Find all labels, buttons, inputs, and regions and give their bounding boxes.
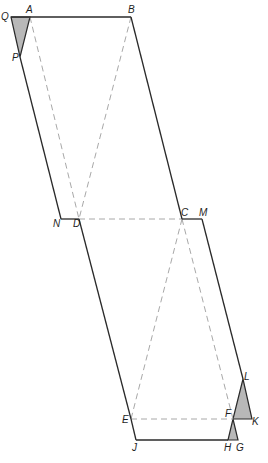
vertex-label-g: G — [236, 442, 244, 453]
dashed-line-ce — [131, 219, 182, 419]
geometric-net-diagram: QABPNDCMEFKLJHG — [0, 0, 268, 463]
vertex-label-h: H — [224, 442, 232, 453]
vertex-label-q: Q — [1, 11, 9, 22]
vertex-label-m: M — [199, 207, 208, 218]
dashed-line-bd — [79, 17, 131, 219]
vertex-labels: QABPNDCMEFKLJHG — [1, 4, 260, 453]
vertex-label-e: E — [122, 414, 129, 425]
dashed-line-cf — [182, 219, 233, 419]
shaded-triangle-qap — [11, 17, 30, 57]
shaded-triangle-fgh — [228, 419, 238, 440]
vertex-label-j: J — [131, 442, 138, 453]
solid-line-ej — [131, 419, 136, 440]
vertex-label-p: P — [12, 52, 19, 63]
solid-line-bc — [131, 17, 182, 219]
vertex-label-b: B — [128, 4, 135, 15]
vertex-label-f: F — [225, 408, 232, 419]
vertex-label-a: A — [25, 4, 33, 15]
shaded-triangle-fkl — [233, 379, 252, 419]
vertex-label-d: D — [73, 218, 80, 229]
vertex-label-c: C — [181, 207, 189, 218]
vertex-label-n: N — [53, 218, 61, 229]
shaded-triangles — [11, 17, 252, 440]
solid-line-pn — [20, 57, 61, 219]
solid-line-de — [79, 219, 131, 419]
solid-line-ml — [202, 219, 243, 379]
vertex-label-l: L — [244, 371, 250, 382]
dashed-line-ad — [30, 17, 79, 219]
vertex-label-k: K — [252, 416, 260, 427]
